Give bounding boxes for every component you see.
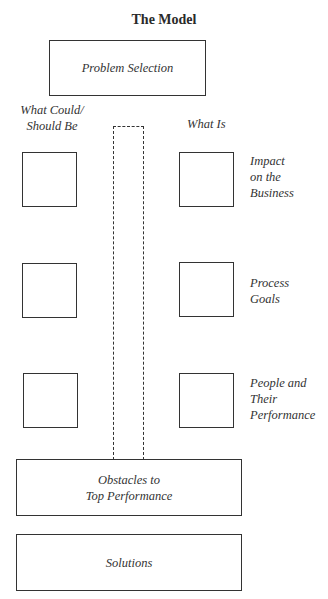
column-header-could-should-be: What Could/ Should Be xyxy=(16,102,88,134)
obstacles-label: Obstacles to Top Performance xyxy=(86,472,173,504)
what-is-square-process xyxy=(179,262,234,317)
column-header-what-is: What Is xyxy=(187,116,226,132)
could-be-square-process xyxy=(22,263,77,318)
what-is-square-people xyxy=(179,373,234,428)
could-be-square-business xyxy=(22,152,77,207)
what-is-square-business xyxy=(179,152,234,207)
obstacles-box: Obstacles to Top Performance xyxy=(16,459,242,516)
row-label-process: Process Goals xyxy=(250,275,289,307)
row-label-business: Impact on the Business xyxy=(250,153,294,201)
could-be-square-people xyxy=(23,373,78,428)
problem-selection-box: Problem Selection xyxy=(49,40,206,96)
solutions-label: Solutions xyxy=(106,555,153,571)
diagram-title: The Model xyxy=(0,12,328,28)
dashed-gap-column xyxy=(113,126,144,460)
row-label-people: People and Their Performance xyxy=(250,375,315,423)
solutions-box: Solutions xyxy=(16,534,242,591)
problem-selection-label: Problem Selection xyxy=(82,60,174,76)
